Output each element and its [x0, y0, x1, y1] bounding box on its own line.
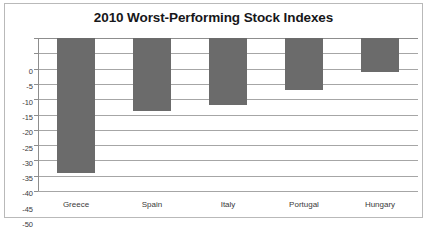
bar-spain — [133, 38, 171, 111]
y-tick-label: 0 — [29, 68, 33, 76]
chart-container: 2010 Worst-Performing Stock Indexes 0-5-… — [4, 3, 423, 218]
y-tick-label: -45 — [22, 206, 33, 214]
bar-series — [38, 38, 418, 191]
y-tick-label: -20 — [22, 129, 33, 137]
gridline — [38, 191, 418, 192]
plot-area — [38, 38, 418, 191]
x-tick-label: Spain — [114, 200, 190, 209]
y-tick-label: -15 — [22, 114, 33, 122]
y-tick-label: -25 — [22, 145, 33, 153]
x-tick-label: Italy — [190, 200, 266, 209]
y-tick-label: -50 — [22, 221, 33, 224]
y-tick-label: -30 — [22, 160, 33, 168]
y-tick-label: -35 — [22, 175, 33, 183]
bar-hungary — [361, 38, 399, 72]
y-axis-labels: 0-5-10-15-20-25-30-35-40-45-50 — [5, 38, 33, 191]
chart-title: 2010 Worst-Performing Stock Indexes — [5, 10, 422, 25]
bar-italy — [209, 38, 247, 105]
y-tick-label: -5 — [26, 83, 33, 91]
bar-greece — [57, 38, 95, 173]
y-tick-label: -10 — [22, 99, 33, 107]
x-tick-label: Greece — [38, 200, 114, 209]
y-tick — [34, 191, 38, 192]
x-tick-label: Hungary — [342, 200, 418, 209]
x-axis-labels: GreeceSpainItalyPortugalHungary — [38, 200, 418, 214]
y-tick-label: -40 — [22, 190, 33, 198]
x-tick-label: Portugal — [266, 200, 342, 209]
bar-portugal — [285, 38, 323, 90]
